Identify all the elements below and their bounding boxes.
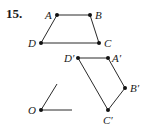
rotation-diagram: 15. A B C D A′ B′ C′ D′ O <box>0 0 150 130</box>
label-d: D <box>27 37 36 49</box>
label-a-prime: A′ <box>111 52 122 64</box>
quadrilateral-abcd: A B C D <box>27 9 112 49</box>
point-b <box>88 13 92 17</box>
quad-abcd-prime-outline <box>78 58 125 110</box>
label-c-prime: C′ <box>103 114 113 126</box>
point-c <box>97 41 101 45</box>
label-c: C <box>104 37 112 49</box>
point-b-prime <box>123 86 127 90</box>
point-a-prime <box>106 56 110 60</box>
point-d-prime <box>76 56 80 60</box>
point-c-prime <box>106 108 110 112</box>
label-b-prime: B′ <box>130 82 140 94</box>
label-o: O <box>28 104 36 116</box>
point-d <box>39 41 43 45</box>
label-a: A <box>44 9 52 21</box>
point-a <box>55 13 59 17</box>
label-d-prime: D′ <box>63 52 75 64</box>
problem-number: 15. <box>6 6 22 21</box>
point-o <box>39 108 43 112</box>
quadrilateral-abcd-prime: A′ B′ C′ D′ <box>63 52 140 126</box>
label-b: B <box>95 9 102 21</box>
angle-ray-oblique <box>41 84 57 110</box>
rotation-center: O <box>28 84 72 116</box>
